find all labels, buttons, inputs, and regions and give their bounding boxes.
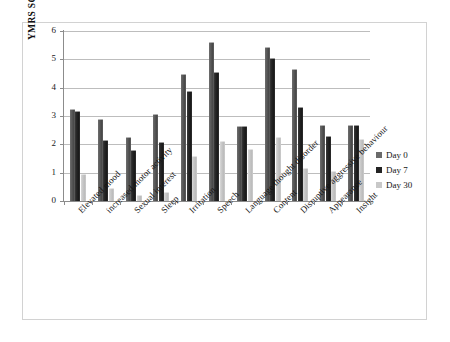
bar-highlight [131, 150, 136, 151]
chart-legend: Day 0 Day 7 Day 30 [376, 147, 412, 192]
chart-figure: YMRS SCORE 0123456 Elevated moodincrease… [0, 0, 450, 342]
bar-day-30[interactable] [248, 149, 253, 201]
legend-swatch-icon [376, 152, 382, 158]
legend-item-day-30: Day 30 [376, 177, 412, 192]
x-tick-mark [203, 201, 204, 205]
bar-day-0[interactable] [181, 74, 186, 201]
bar-highlight [276, 137, 281, 138]
bar-day-30[interactable] [276, 137, 281, 201]
bar-highlight [348, 125, 353, 126]
bar-group [64, 31, 92, 201]
y-tick-label: 0 [38, 195, 56, 205]
y-tick-label: 2 [38, 138, 56, 148]
y-tick-label: 5 [38, 53, 56, 63]
bar-day-7[interactable] [75, 111, 80, 201]
bar-group [287, 31, 315, 201]
x-tick-mark [314, 201, 315, 205]
x-tick-mark [120, 201, 121, 205]
bar-highlight [292, 69, 297, 70]
legend-item-day-7: Day 7 [376, 162, 412, 177]
legend-swatch-icon [376, 167, 382, 173]
y-tick-label: 6 [38, 25, 56, 35]
bar-day-7[interactable] [242, 126, 247, 201]
bar-day-0[interactable] [292, 69, 297, 201]
bar-highlight [187, 91, 192, 92]
legend-item-day-0: Day 0 [376, 147, 412, 162]
bar-highlight [192, 156, 197, 157]
legend-label: Day 30 [386, 180, 412, 190]
bar-highlight [298, 107, 303, 108]
bar-highlight [159, 142, 164, 143]
y-tick-label: 4 [38, 82, 56, 92]
bar-highlight [265, 47, 270, 48]
x-tick-mark [259, 201, 260, 205]
y-axis-title: YMRS SCORE [27, 0, 37, 62]
bar-highlight [214, 72, 219, 73]
bar-highlight [303, 168, 308, 169]
bar-day-30[interactable] [220, 141, 225, 201]
bar-highlight [209, 42, 214, 43]
bar-day-30[interactable] [303, 168, 308, 201]
y-tick-label: 1 [38, 167, 56, 177]
bar-day-7[interactable] [214, 72, 219, 201]
x-tick-mark [64, 201, 65, 205]
bar-day-0[interactable] [265, 47, 270, 201]
bar-day-0[interactable] [70, 109, 75, 201]
bar-highlight [137, 195, 142, 196]
y-tick-label: 3 [38, 110, 56, 120]
bar-highlight [270, 58, 275, 59]
bar-group [342, 31, 370, 201]
legend-label: Day 0 [386, 150, 408, 160]
bar-highlight [359, 139, 364, 140]
legend-swatch-icon [376, 182, 382, 188]
bar-highlight [354, 125, 359, 126]
bar-highlight [164, 192, 169, 193]
bar-highlight [181, 74, 186, 75]
bar-highlight [126, 137, 131, 138]
bar-highlight [103, 140, 108, 141]
bar-highlight [320, 125, 325, 126]
bar-highlight [237, 126, 242, 127]
bar-highlight [326, 136, 331, 137]
bar-highlight [70, 109, 75, 110]
bar-highlight [75, 111, 80, 112]
x-tick-mark [92, 201, 93, 205]
bar-highlight [248, 149, 253, 150]
bar-group [175, 31, 203, 201]
x-tick-mark [147, 201, 148, 205]
bar-day-30[interactable] [192, 156, 197, 201]
x-tick-mark [370, 201, 371, 205]
bar-highlight [98, 119, 103, 120]
bar-day-0[interactable] [209, 42, 214, 201]
x-tick-mark [287, 201, 288, 205]
x-tick-mark [231, 201, 232, 205]
bar-day-0[interactable] [237, 126, 242, 201]
legend-label: Day 7 [386, 165, 408, 175]
x-tick-mark [175, 201, 176, 205]
bar-highlight [242, 126, 247, 127]
x-tick-mark [342, 201, 343, 205]
bar-day-7[interactable] [187, 91, 192, 202]
bar-group [203, 31, 231, 201]
bar-highlight [153, 114, 158, 115]
bar-group [231, 31, 259, 201]
bar-highlight [220, 141, 225, 142]
bar-highlight [81, 174, 86, 175]
